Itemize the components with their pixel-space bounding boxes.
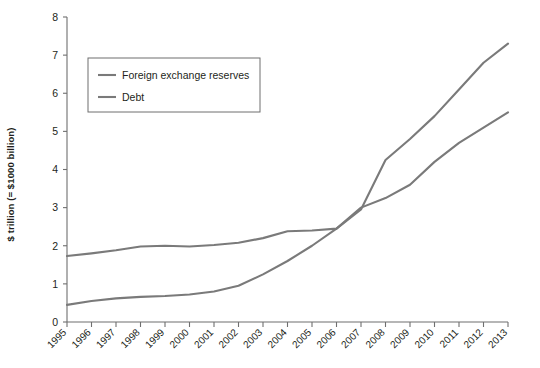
x-tick-label: 2005 <box>290 326 314 350</box>
y-tick-label: 6 <box>52 87 58 99</box>
x-tick-label: 2003 <box>241 326 265 350</box>
y-tick-label: 4 <box>52 163 58 175</box>
x-axis-ticks: 1995199619971998199920002001200220032004… <box>45 322 510 350</box>
chart-container: $ trillion (= $1000 billion) 012345678 1… <box>0 0 540 368</box>
x-tick-label: 2002 <box>216 326 240 350</box>
x-tick-label: 1998 <box>118 326 142 350</box>
chart-legend: Foreign exchange reservesDebt <box>88 58 260 112</box>
y-tick-label: 2 <box>52 240 58 252</box>
x-tick-label: 1999 <box>143 326 167 350</box>
x-tick-label: 1995 <box>45 326 69 350</box>
x-tick-label: 2012 <box>461 326 485 350</box>
y-tick-label: 7 <box>52 49 58 61</box>
series-line-foreign-exchange-reserves <box>67 112 508 305</box>
y-tick-label: 5 <box>52 125 58 137</box>
x-tick-label: 2004 <box>265 326 289 350</box>
x-tick-label: 2011 <box>437 326 460 349</box>
x-tick-label: 2007 <box>339 326 363 350</box>
line-chart-plot: 012345678 199519961997199819992000200120… <box>0 0 540 368</box>
y-axis-ticks: 012345678 <box>52 11 67 328</box>
legend-box <box>88 58 260 112</box>
x-tick-label: 2009 <box>388 326 412 350</box>
y-tick-label: 0 <box>52 316 58 328</box>
x-tick-label: 1997 <box>94 326 118 350</box>
x-tick-label: 2006 <box>314 326 338 350</box>
x-tick-label: 2010 <box>412 326 436 350</box>
x-tick-label: 2008 <box>363 326 387 350</box>
legend-label-2: Debt <box>122 91 144 103</box>
x-tick-label: 1996 <box>69 326 93 350</box>
legend-label-1: Foreign exchange reserves <box>122 69 249 81</box>
x-tick-label: 2000 <box>167 326 191 350</box>
y-tick-label: 1 <box>52 278 58 290</box>
y-tick-label: 3 <box>52 201 58 213</box>
y-tick-label: 8 <box>52 11 58 23</box>
x-tick-label: 2013 <box>486 326 510 350</box>
x-tick-label: 2001 <box>192 326 216 350</box>
